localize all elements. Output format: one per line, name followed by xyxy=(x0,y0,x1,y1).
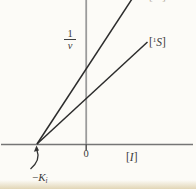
s2-line-label-clipped: [2S] xyxy=(149,0,166,2)
ki-arrowhead-icon xyxy=(34,146,39,152)
s2-label-open: [ xyxy=(149,0,153,2)
s1-line-label: [1S] xyxy=(149,36,166,48)
s1-label-close: ] xyxy=(162,36,166,48)
steep-line xyxy=(37,0,132,144)
y-axis-label: 1 v xyxy=(61,28,79,51)
origin-label: 0 xyxy=(80,148,92,159)
s2-label-close: ] xyxy=(162,0,166,2)
plot-canvas xyxy=(0,0,196,189)
y-axis-label-numerator: 1 xyxy=(64,28,75,40)
x-axis-label: [I] xyxy=(126,151,138,163)
page-scan-edge xyxy=(0,180,196,189)
x-axis-label-close: ] xyxy=(134,151,138,163)
ki-arrow-tail xyxy=(31,150,39,169)
y-axis-label-denominator: v xyxy=(61,40,79,51)
shallow-line xyxy=(37,42,148,144)
dixon-plot-figure: 1 v 0 [I] [1S] [2S] −Ki xyxy=(0,0,196,189)
